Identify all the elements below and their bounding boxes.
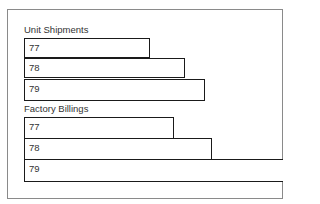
- bar-label: 77: [29, 121, 40, 132]
- bar-factory-billings-79: 79: [24, 159, 283, 182]
- bar-label: 79: [29, 163, 40, 174]
- bar-unit-shipments-79: 79: [24, 79, 205, 101]
- group-title-factory-billings: Factory Billings: [24, 103, 88, 114]
- bar-label: 78: [29, 62, 40, 73]
- bar-unit-shipments-78: 78: [24, 58, 185, 78]
- group-title-unit-shipments: Unit Shipments: [24, 24, 88, 35]
- bar-factory-billings-77: 77: [24, 117, 174, 139]
- bar-factory-billings-78: 78: [24, 138, 212, 160]
- bar-unit-shipments-77: 77: [24, 38, 150, 58]
- bar-label: 78: [29, 142, 40, 153]
- bar-label: 77: [29, 42, 40, 53]
- bar-label: 79: [29, 83, 40, 94]
